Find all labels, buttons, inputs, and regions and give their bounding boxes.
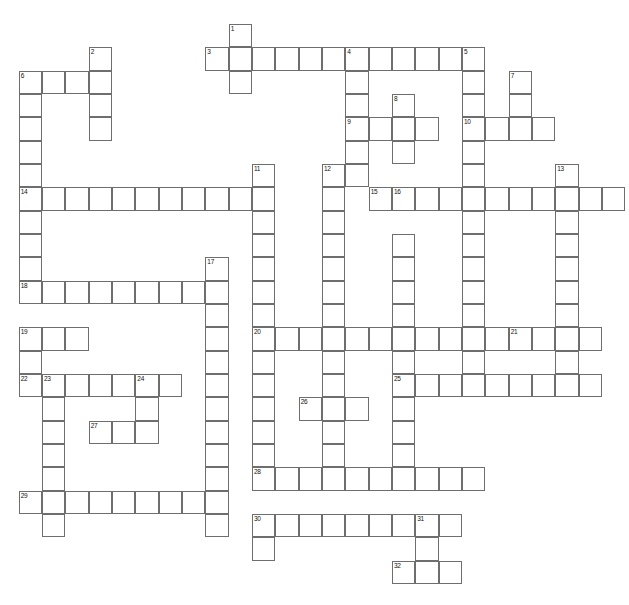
- crossword-cell[interactable]: [159, 491, 182, 514]
- crossword-cell[interactable]: [252, 257, 275, 280]
- crossword-cell[interactable]: [252, 304, 275, 327]
- crossword-cell[interactable]: [275, 514, 298, 537]
- crossword-cell[interactable]: [42, 397, 65, 420]
- crossword-cell[interactable]: [415, 374, 438, 397]
- crossword-cell[interactable]: [462, 281, 485, 304]
- crossword-cell[interactable]: [462, 374, 485, 397]
- crossword-cell[interactable]: 9: [345, 117, 368, 140]
- crossword-cell[interactable]: [462, 164, 485, 187]
- crossword-cell[interactable]: [392, 467, 415, 490]
- crossword-cell[interactable]: [509, 187, 532, 210]
- crossword-cell[interactable]: [439, 514, 462, 537]
- crossword-cell[interactable]: [252, 374, 275, 397]
- crossword-cell[interactable]: [89, 374, 112, 397]
- crossword-cell[interactable]: 18: [19, 281, 42, 304]
- crossword-cell[interactable]: [555, 327, 578, 350]
- crossword-cell[interactable]: [392, 141, 415, 164]
- crossword-cell[interactable]: [322, 257, 345, 280]
- crossword-cell[interactable]: [89, 71, 112, 94]
- crossword-cell[interactable]: [509, 374, 532, 397]
- crossword-cell[interactable]: [392, 117, 415, 140]
- crossword-cell[interactable]: [392, 234, 415, 257]
- crossword-cell[interactable]: [65, 187, 88, 210]
- crossword-cell[interactable]: 19: [19, 327, 42, 350]
- crossword-cell[interactable]: [555, 187, 578, 210]
- crossword-cell[interactable]: [462, 327, 485, 350]
- crossword-cell[interactable]: [579, 327, 602, 350]
- crossword-cell[interactable]: [42, 421, 65, 444]
- crossword-cell[interactable]: [19, 164, 42, 187]
- crossword-cell[interactable]: [42, 444, 65, 467]
- crossword-cell[interactable]: [252, 351, 275, 374]
- crossword-cell[interactable]: [322, 47, 345, 70]
- crossword-cell[interactable]: [205, 327, 228, 350]
- crossword-cell[interactable]: [182, 187, 205, 210]
- crossword-cell[interactable]: [19, 211, 42, 234]
- crossword-cell[interactable]: [42, 281, 65, 304]
- crossword-cell[interactable]: [205, 514, 228, 537]
- crossword-cell[interactable]: [392, 397, 415, 420]
- crossword-cell[interactable]: [112, 491, 135, 514]
- crossword-cell[interactable]: [415, 117, 438, 140]
- crossword-cell[interactable]: 25: [392, 374, 415, 397]
- crossword-cell[interactable]: 14: [19, 187, 42, 210]
- crossword-cell[interactable]: [65, 71, 88, 94]
- crossword-cell[interactable]: [252, 47, 275, 70]
- crossword-cell[interactable]: [555, 281, 578, 304]
- crossword-cell[interactable]: 11: [252, 164, 275, 187]
- crossword-cell[interactable]: [65, 327, 88, 350]
- crossword-cell[interactable]: [415, 537, 438, 560]
- crossword-cell[interactable]: [19, 141, 42, 164]
- crossword-cell[interactable]: [439, 47, 462, 70]
- crossword-cell[interactable]: [252, 281, 275, 304]
- crossword-cell[interactable]: [65, 374, 88, 397]
- crossword-cell[interactable]: 3: [205, 47, 228, 70]
- crossword-cell[interactable]: [322, 514, 345, 537]
- crossword-cell[interactable]: [42, 71, 65, 94]
- crossword-cell[interactable]: [392, 281, 415, 304]
- crossword-cell[interactable]: [485, 327, 508, 350]
- crossword-cell[interactable]: [485, 374, 508, 397]
- crossword-cell[interactable]: [415, 187, 438, 210]
- crossword-cell[interactable]: [205, 397, 228, 420]
- crossword-cell[interactable]: [112, 374, 135, 397]
- crossword-cell[interactable]: 5: [462, 47, 485, 70]
- crossword-cell[interactable]: [205, 187, 228, 210]
- crossword-cell[interactable]: [532, 374, 555, 397]
- crossword-cell[interactable]: [392, 47, 415, 70]
- crossword-cell[interactable]: [135, 281, 158, 304]
- crossword-cell[interactable]: [89, 94, 112, 117]
- crossword-cell[interactable]: [322, 374, 345, 397]
- crossword-cell[interactable]: [42, 467, 65, 490]
- crossword-cell[interactable]: [42, 491, 65, 514]
- crossword-cell[interactable]: 22: [19, 374, 42, 397]
- crossword-cell[interactable]: [532, 187, 555, 210]
- crossword-cell[interactable]: [299, 467, 322, 490]
- crossword-cell[interactable]: [159, 187, 182, 210]
- crossword-cell[interactable]: [555, 351, 578, 374]
- crossword-cell[interactable]: 6: [19, 71, 42, 94]
- crossword-cell[interactable]: [392, 327, 415, 350]
- crossword-cell[interactable]: [252, 397, 275, 420]
- crossword-cell[interactable]: [322, 467, 345, 490]
- crossword-cell[interactable]: [322, 304, 345, 327]
- crossword-cell[interactable]: [439, 561, 462, 584]
- crossword-cell[interactable]: [345, 467, 368, 490]
- crossword-cell[interactable]: [252, 444, 275, 467]
- crossword-cell[interactable]: [415, 561, 438, 584]
- crossword-cell[interactable]: [275, 327, 298, 350]
- crossword-cell[interactable]: 24: [135, 374, 158, 397]
- crossword-cell[interactable]: [345, 514, 368, 537]
- crossword-cell[interactable]: [135, 421, 158, 444]
- crossword-cell[interactable]: 27: [89, 421, 112, 444]
- crossword-cell[interactable]: [369, 117, 392, 140]
- crossword-cell[interactable]: [392, 444, 415, 467]
- crossword-cell[interactable]: [205, 421, 228, 444]
- crossword-cell[interactable]: [602, 187, 625, 210]
- crossword-cell[interactable]: [42, 514, 65, 537]
- crossword-cell[interactable]: [205, 351, 228, 374]
- crossword-cell[interactable]: 29: [19, 491, 42, 514]
- crossword-cell[interactable]: [532, 117, 555, 140]
- crossword-cell[interactable]: [65, 281, 88, 304]
- crossword-cell[interactable]: [345, 94, 368, 117]
